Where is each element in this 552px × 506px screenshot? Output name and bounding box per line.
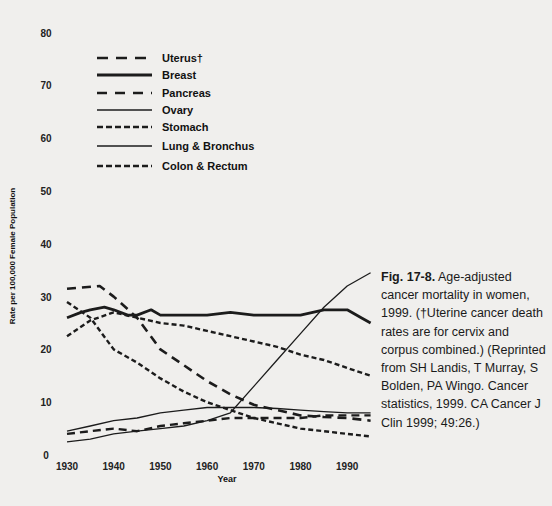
y-tick-label: 80 <box>40 28 52 39</box>
x-tick-label: 1990 <box>336 461 359 472</box>
y-tick-label: 60 <box>40 133 52 144</box>
y-axis-ticks: 01020304050607080 <box>40 28 52 461</box>
x-axis-label: Year <box>217 474 237 484</box>
series-line-colon-rectum <box>67 312 371 375</box>
y-axis-label: Rate per 100,000 Female Population <box>8 188 17 325</box>
caption-text: Age-adjusted cancer mortality in women, … <box>381 270 546 430</box>
legend: Uterus†BreastPancreasOvaryStomachLung & … <box>97 52 254 172</box>
legend-label: Lung & Bronchus <box>162 140 254 152</box>
x-tick-label: 1980 <box>289 461 312 472</box>
legend-label: Stomach <box>162 121 209 133</box>
legend-label: Uterus† <box>162 52 203 64</box>
legend-label: Ovary <box>162 104 194 116</box>
legend-label: Pancreas <box>162 87 211 99</box>
x-axis-ticks: 1930194019501960197019801990 <box>56 461 359 472</box>
x-tick-label: 1960 <box>196 461 219 472</box>
series-line-breast <box>67 307 371 323</box>
y-tick-label: 10 <box>40 397 52 408</box>
y-tick-label: 30 <box>40 292 52 303</box>
y-tick-label: 40 <box>40 239 52 250</box>
legend-label: Breast <box>162 69 197 81</box>
plot-lines <box>67 273 371 442</box>
y-tick-label: 50 <box>40 186 52 197</box>
y-tick-label: 0 <box>43 450 49 461</box>
legend-label: Colon & Rectum <box>162 160 248 172</box>
x-tick-label: 1930 <box>56 461 79 472</box>
figure-label: Fig. 17-8. <box>381 270 435 284</box>
x-tick-label: 1970 <box>243 461 266 472</box>
y-tick-label: 70 <box>40 80 52 91</box>
x-tick-label: 1950 <box>149 461 172 472</box>
y-tick-label: 20 <box>40 344 52 355</box>
figure-caption: Fig. 17-8. Age-adjusted cancer mortality… <box>381 268 549 432</box>
x-tick-label: 1940 <box>103 461 126 472</box>
